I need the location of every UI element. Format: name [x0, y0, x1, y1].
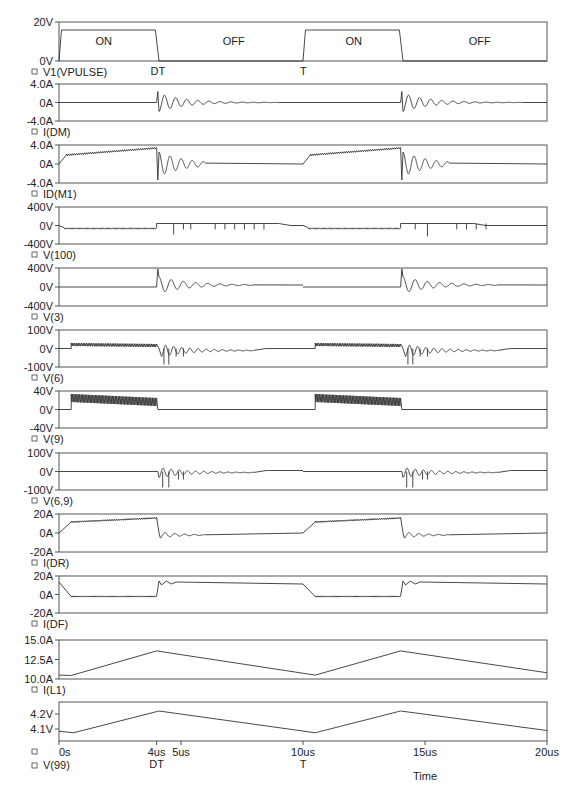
x-annotation-dt: DT — [149, 758, 164, 770]
y-tick-label: 0A — [40, 158, 54, 170]
legend-marker-icon — [32, 560, 37, 565]
trace-name-label: V(99) — [43, 759, 70, 771]
off-label: OFF — [469, 35, 491, 47]
legend-marker-icon — [32, 252, 37, 257]
trace-name-label: I(L1) — [43, 684, 66, 696]
panel-frame — [59, 702, 547, 741]
trace-name-label: V(9) — [43, 433, 64, 445]
waveform-traces — [59, 30, 547, 733]
y-tick-label: 0V — [40, 343, 54, 355]
v69-trace — [59, 468, 303, 477]
dt-label: DT — [151, 65, 166, 77]
y-tick-label: 400V — [27, 262, 53, 274]
y-tick-label: 0V — [40, 466, 54, 478]
legend-marker-icon — [32, 191, 37, 196]
trace-name-label: I(DR) — [43, 557, 69, 569]
y-tick-label: 0V — [40, 281, 54, 293]
legend-marker-icon — [32, 687, 37, 692]
legend-marker-icon — [32, 498, 37, 503]
idr-trace — [59, 517, 303, 538]
y-tick-label: 4.1V — [30, 723, 53, 735]
trace-name-label: ID(M1) — [43, 188, 77, 200]
y-tick-label: 0A — [40, 527, 54, 539]
y-tick-label: 4.0A — [30, 78, 53, 90]
y-tick-label: 100V — [27, 447, 53, 459]
y-tick-label: 4.0A — [30, 139, 53, 151]
x-tick-label: 5us — [172, 746, 190, 758]
legend-marker-icon — [32, 69, 37, 74]
y-tick-label: 0A — [40, 589, 54, 601]
t-label: T — [300, 65, 307, 77]
y-tick-label: 20A — [33, 508, 53, 520]
idm1-ramp-trace — [59, 147, 157, 164]
panel-frames — [55, 22, 547, 745]
legend-marker-icon — [32, 763, 37, 768]
trace-name-label: V1(VPULSE) — [43, 66, 107, 78]
v3-trace — [303, 269, 547, 292]
y-tick-label: 20A — [33, 570, 53, 582]
legend-marker-icon — [32, 749, 37, 754]
on-label: ON — [96, 35, 113, 47]
legend-marker-icon — [32, 314, 37, 319]
y-tick-label: 0V — [40, 220, 54, 232]
y-tick-label: 12.5A — [24, 654, 53, 666]
x-axis-title: Time — [413, 770, 437, 782]
idm1-ring-trace — [157, 148, 303, 180]
trace-name-label: V(6) — [43, 372, 64, 384]
trace-name-label: I(DM) — [43, 126, 71, 138]
trace-name-label: V(3) — [43, 311, 64, 323]
v9-trace — [59, 394, 303, 410]
trace-name-label: I(DF) — [43, 618, 68, 630]
y-tick-label: 100V — [27, 324, 53, 336]
idm1-ramp-trace — [303, 147, 401, 164]
panel-frame — [59, 576, 547, 613]
v100-trace — [59, 224, 547, 230]
legend-marker-icon — [32, 436, 37, 441]
v69-trace — [303, 468, 547, 477]
y-tick-label: 20V — [33, 16, 53, 28]
legend-marker-icon — [32, 621, 37, 626]
v99-trace — [59, 711, 547, 733]
y-tick-label: 0V — [40, 404, 54, 416]
y-tick-label: 0A — [40, 97, 54, 109]
v9-trace — [303, 394, 547, 410]
il1-trace — [59, 651, 547, 676]
legend-marker-icon — [32, 129, 37, 134]
idr-trace — [303, 517, 547, 538]
v6-trace — [303, 343, 547, 357]
trace-name-label: V(100) — [43, 249, 76, 261]
off-label: OFF — [223, 35, 245, 47]
idm-ring-trace — [157, 92, 279, 112]
idf-trace — [59, 581, 547, 597]
x-tick-label: 10us — [291, 746, 315, 758]
v6-trace — [59, 343, 303, 357]
waveform-stack-chart: 20V0VV1(VPULSE)4.0A0A-4.0AI(DM)4.0A0A-4.… — [0, 0, 568, 791]
x-tick-label: 15us — [413, 746, 437, 758]
legend-marker-icon — [32, 375, 37, 380]
trace-name-label: V(6,9) — [43, 495, 73, 507]
x-tick-label: 0s — [59, 746, 71, 758]
y-tick-label: 4.2V — [30, 708, 53, 720]
x-tick-label: 20us — [535, 746, 559, 758]
idm1-ring-trace — [401, 148, 547, 180]
y-tick-label: 40V — [33, 385, 53, 397]
x-annotation-t: T — [300, 758, 307, 770]
y-tick-label: 400V — [27, 201, 53, 213]
on-label: ON — [346, 35, 363, 47]
x-tick-label: 4us — [148, 746, 166, 758]
y-tick-label: 15.0A — [24, 634, 53, 646]
idm-ring-trace — [401, 92, 523, 112]
v3-trace — [59, 269, 303, 292]
